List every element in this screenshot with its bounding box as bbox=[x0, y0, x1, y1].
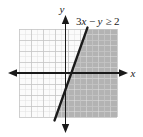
y-axis-label: y bbox=[59, 3, 65, 15]
x-axis-arrow-left bbox=[8, 69, 17, 77]
x-axis-label: x bbox=[130, 67, 136, 79]
inequality-constant: 2 bbox=[114, 15, 120, 27]
inequality-var-x: x bbox=[81, 15, 87, 27]
inequality-relation: ≥ bbox=[106, 15, 112, 27]
y-axis-arrow-down bbox=[62, 124, 69, 133]
inequality-label: 3x−y≥2 bbox=[76, 15, 120, 27]
inequality-var-y: y bbox=[97, 15, 103, 27]
y-axis-arrow-up bbox=[62, 15, 69, 24]
x-axis-arrow-right bbox=[119, 69, 128, 77]
inequality-minus: − bbox=[89, 15, 95, 27]
coordinate-plane-svg: y x 3x−y≥2 bbox=[0, 0, 143, 137]
inequality-graph-figure: y x 3x−y≥2 bbox=[0, 0, 143, 137]
